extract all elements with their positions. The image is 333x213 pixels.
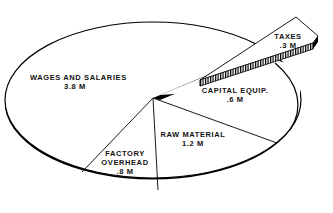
label-wages-name: WAGES AND SALARIES [30, 73, 120, 82]
label-wages: WAGES AND SALARIES 3.8 M [30, 73, 120, 91]
label-taxes: TAXES .3 M [268, 32, 308, 50]
label-taxes-value: .3 M [268, 41, 308, 50]
label-capital: CAPITAL EQUIP. .6 M [200, 86, 270, 104]
label-factory-value: .8 M [95, 167, 155, 176]
label-wages-value: 3.8 M [30, 82, 120, 91]
label-capital-value: .6 M [200, 95, 270, 104]
label-factory-name1: FACTORY [95, 149, 155, 158]
label-raw-name: RAW MATERIAL [158, 130, 228, 139]
label-raw: RAW MATERIAL 1.2 M [158, 130, 228, 148]
label-capital-name: CAPITAL EQUIP. [200, 86, 270, 95]
label-taxes-name: TAXES [268, 32, 308, 41]
label-raw-value: 1.2 M [158, 139, 228, 148]
label-factory: FACTORY OVERHEAD .8 M [95, 149, 155, 176]
label-factory-name2: OVERHEAD [95, 158, 155, 167]
